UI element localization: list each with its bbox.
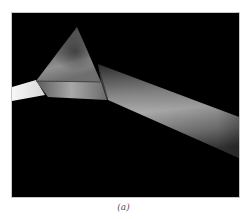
figure: (a) xyxy=(0,0,247,219)
prism-illustration xyxy=(0,0,247,219)
figure-caption: (a) xyxy=(0,202,247,212)
prism-lower-face xyxy=(36,81,107,100)
